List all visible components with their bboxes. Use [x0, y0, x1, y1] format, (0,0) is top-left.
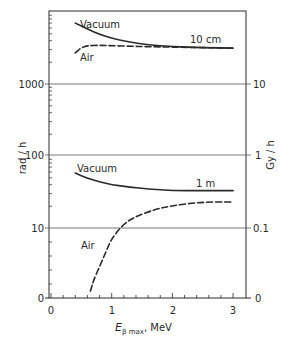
y-right-axis-label: Gy / h [265, 140, 276, 170]
y-left-axis-label: rad / h [17, 142, 28, 175]
x-axis-label-main: E [115, 321, 122, 334]
label-distance-1m: 1 m [196, 178, 215, 189]
y-left-tick-1000: 1000 [19, 79, 44, 90]
x-axis-label-unit: , MeV [144, 322, 172, 333]
label-air-1m: Air [81, 240, 96, 251]
curve-air-1m [90, 202, 233, 291]
x-tick-3: 3 [230, 305, 236, 316]
frame-rect [49, 11, 246, 298]
y-right-tick-10: 10 [253, 79, 266, 90]
label-air-10cm: Air [80, 52, 95, 63]
y-right-tick-0: 0 [255, 293, 261, 304]
data-curves [75, 23, 233, 291]
x-axis-label: Eβ max, MeV [115, 321, 172, 336]
label-vacuum-1m: Vacuum [77, 163, 117, 174]
y-left-tick-0: 0 [38, 293, 44, 304]
label-distance-10cm: 10 cm [190, 34, 221, 45]
y-right-tick-0.1: 0.1 [253, 223, 269, 234]
y-right-tick-1: 1 [255, 150, 261, 161]
plot-frame [49, 11, 246, 298]
dose-rate-chart: 1000 100 10 0 10 1 0.1 0 0 1 2 3 Eβ max,… [0, 0, 289, 344]
x-tick-0: 0 [48, 305, 54, 316]
axis-ticks [49, 15, 233, 298]
curve-air-10cm [75, 45, 233, 53]
x-tick-1: 1 [109, 305, 115, 316]
label-vacuum-10cm: Vacuum [80, 19, 120, 30]
x-tick-2: 2 [170, 305, 176, 316]
x-axis-label-sub: β max [122, 328, 144, 336]
y-left-tick-10: 10 [31, 223, 44, 234]
